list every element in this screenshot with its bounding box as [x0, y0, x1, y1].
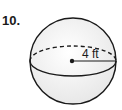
sphere-diagram: 4 ft [0, 0, 122, 110]
radius-label: 4 ft [82, 47, 99, 61]
center-point [70, 59, 74, 63]
